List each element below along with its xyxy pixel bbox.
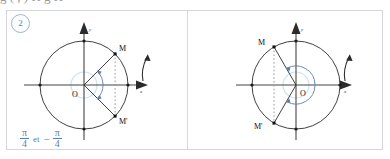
point-M-label: M [119,44,126,53]
y-axis-arrowhead [292,22,301,34]
point-M-label: M [258,38,265,47]
answer-left: π 4 et − π 4 [20,128,62,149]
answer-left-fraction-1: π 4 [20,128,29,149]
angle-arc-negative-arrowhead [97,95,102,99]
circle-top-point [294,39,297,42]
panel-left: x y M M' [6,10,188,150]
unit-circle-diagram-right: x y M M' [190,10,383,150]
radius-to-M [84,54,115,85]
rotation-arrow-head [346,54,352,61]
point-M-marker [273,45,276,48]
y-axis-arrowhead [80,22,89,34]
origin-label: O [300,89,306,98]
circle-right-point [126,83,129,86]
point-M-prime-marker [273,122,276,125]
origin-label: O [72,90,78,99]
circle-bottom-point [294,127,297,130]
answer-left-f2-den: 4 [53,138,62,149]
circle-left-point [250,83,253,86]
circle-bottom-point [82,127,85,130]
y-axis-label: y [88,27,92,32]
answer-left-f2-num: π [53,128,62,138]
circle-top-point [82,39,85,42]
radius-to-M-prime [84,85,115,116]
answer-left-fraction-2: π 4 [53,128,62,149]
cropped-header-text: g ( , ) H g H [0,0,390,9]
point-M-prime-label: M' [119,117,128,126]
x-axis-label: x [139,89,143,94]
cropped-header-glyphs: g ( , ) H g H [0,0,63,5]
angle-arc-positive-arrowhead [97,71,102,75]
answer-left-f1-den: 4 [20,138,29,149]
circle-right-point [338,83,341,86]
point-M-prime-marker [114,115,117,118]
y-axis-label: y [300,27,304,32]
rotation-arrow-head [144,54,150,61]
answer-left-minus-sign: − [44,133,50,145]
answer-left-f1-num: π [20,128,29,138]
panel-right: x y M M' [190,10,383,150]
x-axis-label: x [343,89,347,94]
point-M-prime-label: M' [254,122,263,131]
exercise-figure-page: g ( , ) H g H 2 x y [0,0,390,159]
answer-left-conjunction: et [32,134,41,144]
circle-left-point [38,83,41,86]
point-M-marker [114,52,117,55]
